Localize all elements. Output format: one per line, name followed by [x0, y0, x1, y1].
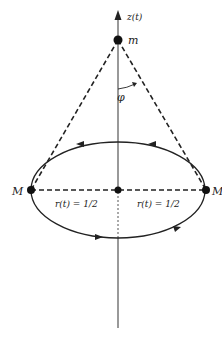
- left-mass-label: M: [11, 185, 24, 198]
- axis-label: z(t): [126, 12, 143, 22]
- z-axis: [115, 10, 122, 328]
- arrow-bottom-left-icon: [95, 234, 103, 240]
- left-mass-dot: [27, 186, 35, 194]
- right-radius-label: r(t) = 1/2: [137, 199, 180, 209]
- right-mass-dot: [202, 186, 210, 194]
- axis-arrow-icon: [115, 10, 122, 20]
- center-dot: [115, 187, 122, 194]
- left-radius-label: r(t) = 1/2: [55, 199, 98, 209]
- arrow-bottom-right-icon: [173, 226, 181, 232]
- top-mass-dot: [114, 36, 123, 45]
- angle-arc-arrow-icon: [132, 82, 137, 87]
- right-mass-label: M: [211, 185, 222, 198]
- angle-label: φ: [117, 91, 125, 104]
- angle-phi-arc: [118, 84, 135, 89]
- top-mass-label: m: [128, 34, 138, 47]
- conical-pendulum-diagram: z(t) m φ M M r(t) = 1/2 r(t) = 1/2: [0, 0, 222, 343]
